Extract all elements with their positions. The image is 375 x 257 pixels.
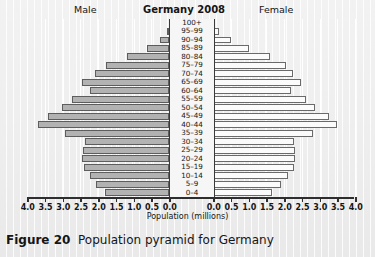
male-bar: [38, 121, 169, 128]
age-group-label: 50–54: [170, 104, 214, 112]
male-bar: [48, 113, 169, 120]
age-group-label: 85–89: [170, 44, 214, 52]
age-group-label: 20–24: [170, 155, 214, 163]
age-group-label: 90–94: [170, 36, 214, 44]
male-bar: [127, 53, 169, 60]
age-group-axis: 0–45–910–1415–1920–2425–2930–3435–3940–4…: [169, 19, 215, 197]
male-bar: [105, 189, 169, 196]
x-axis-line: [27, 197, 354, 199]
female-bar: [213, 79, 301, 86]
age-group-label: 65–69: [170, 78, 214, 86]
female-bar: [213, 45, 249, 52]
female-bar: [213, 138, 294, 145]
male-bar: [62, 104, 169, 111]
male-bar: [106, 62, 169, 69]
age-group-label: 70–74: [170, 70, 214, 78]
male-bar: [160, 37, 169, 44]
female-bar: [213, 53, 270, 60]
female-bar: [213, 189, 272, 196]
figure-root: Male Germany 2008 Female 0–45–910–1415–1…: [0, 0, 375, 257]
female-bar: [213, 87, 291, 94]
male-bar: [82, 79, 169, 86]
age-group-label: 30–34: [170, 138, 214, 146]
age-group-label: 95–99: [170, 27, 214, 35]
population-pyramid-chart: Male Germany 2008 Female 0–45–910–1415–1…: [0, 0, 375, 224]
male-bar: [96, 181, 169, 188]
male-bar: [90, 87, 169, 94]
male-bar: [95, 70, 169, 77]
age-group-label: 35–39: [170, 129, 214, 137]
male-bar: [83, 147, 169, 154]
male-bar: [65, 130, 169, 137]
female-bar: [213, 70, 293, 77]
age-group-label: 75–79: [170, 61, 214, 69]
age-group-label: 10–14: [170, 172, 214, 180]
age-group-label: 55–59: [170, 95, 214, 103]
female-bar: [213, 164, 294, 171]
age-group-label: 45–49: [170, 112, 214, 120]
age-group-label: 60–64: [170, 87, 214, 95]
female-bar: [213, 172, 288, 179]
female-bar: [213, 37, 231, 44]
age-group-label: 25–29: [170, 146, 214, 154]
age-group-label: 5–9: [170, 180, 214, 188]
chart-title: Germany 2008: [143, 2, 225, 18]
plot-area: 0–45–910–1415–1920–2425–2930–3435–3940–4…: [27, 19, 354, 197]
figure-caption: Figure 20 Population pyramid for Germany: [6, 232, 375, 248]
male-bar: [85, 138, 169, 145]
male-bar: [90, 172, 169, 179]
female-bar: [213, 155, 295, 162]
age-group-label: 40–44: [170, 121, 214, 129]
male-bar: [82, 155, 169, 162]
female-bar: [213, 113, 329, 120]
male-bar: [147, 45, 169, 52]
female-bar: [213, 104, 315, 111]
female-bar: [213, 121, 337, 128]
female-bar: [213, 147, 295, 154]
gridline: [355, 19, 356, 197]
female-bar: [213, 130, 313, 137]
age-group-label: 100+: [170, 19, 214, 27]
female-bar: [213, 181, 281, 188]
female-column-label: Female: [259, 2, 293, 18]
figure-number: Figure 20: [6, 233, 70, 247]
age-group-label: 80–84: [170, 53, 214, 61]
female-bar: [213, 96, 306, 103]
age-group-label: 0–4: [170, 189, 214, 197]
male-bar: [72, 96, 169, 103]
caption-text: Population pyramid for Germany: [78, 233, 274, 247]
x-axis-label: Population (millions): [0, 212, 375, 221]
age-group-label: 15–19: [170, 163, 214, 171]
female-bar: [213, 62, 286, 69]
male-bar: [84, 164, 169, 171]
male-column-label: Male: [74, 2, 97, 18]
chart-header: Male Germany 2008 Female: [0, 2, 375, 18]
